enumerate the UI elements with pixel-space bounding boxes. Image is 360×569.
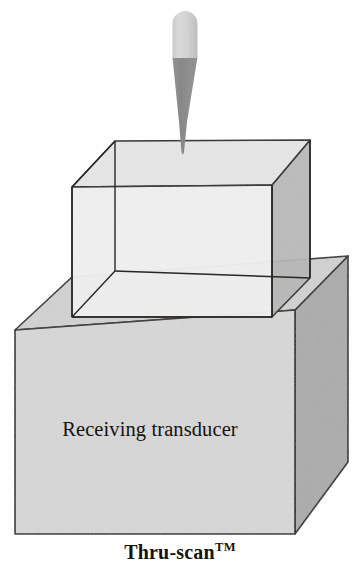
figure-caption-text: Thru-scan [124,541,215,563]
specimen-front-face [72,185,272,317]
receiving-transducer-label: Receiving transducer [0,418,300,441]
specimen-block [72,140,310,317]
trademark-symbol: TM [215,540,236,554]
specimen-top-face [72,140,310,187]
thru-scan-figure: Receiving transducer Thru-scanTM [0,0,360,569]
figure-caption: Thru-scanTM [0,540,360,564]
figure-illustration [0,0,360,569]
probe-body [172,11,197,58]
transmitting-probe [172,11,197,155]
